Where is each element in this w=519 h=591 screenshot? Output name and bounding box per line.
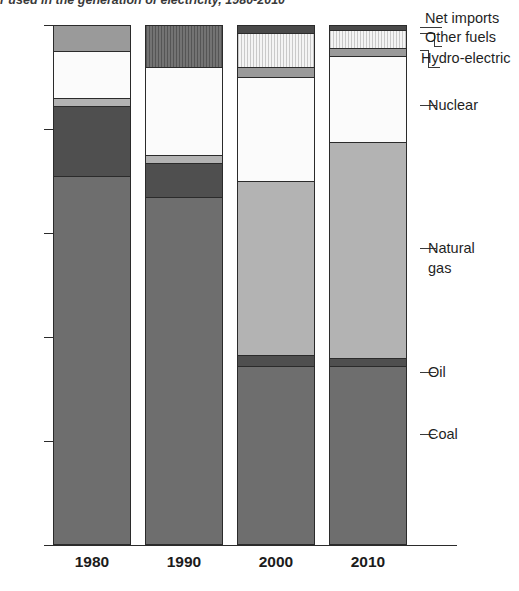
segment-other-fuels[interactable] xyxy=(237,33,315,67)
legend-other-fuels: Other fuels xyxy=(425,29,496,46)
legend-nuclear: Nuclear xyxy=(428,97,478,114)
bar-2000[interactable] xyxy=(237,25,315,545)
y-tick-mark xyxy=(44,337,53,338)
segment-nuclear[interactable] xyxy=(329,56,407,142)
segment-oil[interactable] xyxy=(145,163,223,197)
y-tick-mark xyxy=(44,233,53,234)
plot-area xyxy=(53,25,419,545)
segment-oil[interactable] xyxy=(237,355,315,365)
x-axis-label-1980: 1980 xyxy=(53,553,131,571)
segment-oil[interactable] xyxy=(53,106,131,176)
legend-oil: Oil xyxy=(428,364,446,381)
bar-1980[interactable] xyxy=(53,25,131,545)
segment-coal[interactable] xyxy=(329,366,407,545)
leader-other-fuels-h2 xyxy=(434,46,442,47)
segment-nuclear[interactable] xyxy=(145,67,223,155)
x-axis-label-2000: 2000 xyxy=(237,553,315,571)
segment-oil[interactable] xyxy=(329,358,407,366)
segment-coal[interactable] xyxy=(53,176,131,545)
segment-coal[interactable] xyxy=(145,197,223,545)
x-axis-label-1990: 1990 xyxy=(145,553,223,571)
y-tick-mark xyxy=(44,441,53,442)
segment-other-fuels[interactable] xyxy=(145,25,223,67)
segment-hydro-electric[interactable] xyxy=(329,48,407,56)
legend-coal: Coal xyxy=(428,426,458,443)
segment-hydro-electric[interactable] xyxy=(237,67,315,77)
legend-natural-gas-line2: gas xyxy=(428,260,451,277)
segment-natural-gas[interactable] xyxy=(329,142,407,358)
bar-2010[interactable] xyxy=(329,25,407,545)
segment-hydro-electric[interactable] xyxy=(53,25,131,51)
leader-net-imports xyxy=(420,27,442,28)
segment-coal[interactable] xyxy=(237,366,315,545)
x-axis-label-2010: 2010 xyxy=(329,553,407,571)
segment-natural-gas[interactable] xyxy=(53,98,131,106)
segment-natural-gas[interactable] xyxy=(237,181,315,355)
y-tick-mark xyxy=(44,25,53,26)
y-tick-mark xyxy=(44,545,53,546)
segment-nuclear[interactable] xyxy=(53,51,131,98)
segment-nuclear[interactable] xyxy=(237,77,315,181)
segment-net-imports[interactable] xyxy=(329,25,407,30)
x-axis-line xyxy=(53,545,457,546)
segment-other-fuels[interactable] xyxy=(329,30,407,48)
legend-hydro-electric: Hydro-electric xyxy=(421,50,510,67)
segment-net-imports[interactable] xyxy=(237,25,315,33)
segment-natural-gas[interactable] xyxy=(145,155,223,163)
chart-title: r used in the generation of electricity,… xyxy=(0,0,430,9)
legend-net-imports: Net imports xyxy=(425,10,499,27)
bar-1990[interactable] xyxy=(145,25,223,545)
y-tick-mark xyxy=(44,129,53,130)
legend-natural-gas-line1: Natural xyxy=(428,240,475,257)
leader-hydro-h2 xyxy=(428,67,440,68)
